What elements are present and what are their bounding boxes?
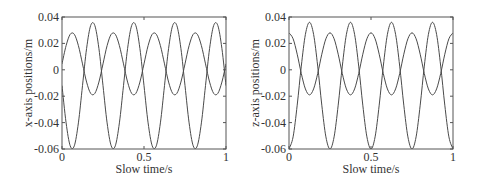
figure: 0.040.020-0.02-0.04-0.0600.51Slow time/s… [0, 0, 477, 194]
y-axis-label: x-axis positions/m [21, 38, 35, 127]
y-tick-label: -0.06 [34, 142, 59, 156]
y-tick-label: 0.02 [265, 36, 286, 50]
x-tick-label: 1 [223, 150, 229, 164]
y-tick-label: 0.04 [265, 10, 286, 24]
series-line-small-amplitude [289, 33, 453, 95]
y-tick-label: -0.02 [261, 89, 286, 103]
y-tick-label: 0.02 [38, 36, 59, 50]
series-line-large-amplitude [62, 23, 226, 149]
x-axis-label: Slow time/s [342, 162, 399, 176]
series-line-large-amplitude [289, 22, 453, 149]
y-tick-label: -0.04 [261, 116, 286, 130]
y-tick-label: 0 [53, 63, 59, 77]
subplot-z-axis: 0.040.020-0.02-0.04-0.0600.51Slow time/s… [248, 10, 456, 176]
y-tick-label: -0.04 [34, 116, 59, 130]
y-tick-label: -0.02 [34, 89, 59, 103]
x-axis-label: Slow time/s [115, 162, 172, 176]
y-axis-label: z-axis positions/m [248, 39, 262, 127]
x-tick-label: 0 [286, 150, 292, 164]
subplot-x-axis: 0.040.020-0.02-0.04-0.0600.51Slow time/s… [21, 10, 229, 176]
x-tick-label: 0 [59, 150, 65, 164]
y-tick-label: 0 [280, 63, 286, 77]
y-tick-label: -0.06 [261, 142, 286, 156]
y-tick-label: 0.04 [38, 10, 59, 24]
x-tick-label: 1 [450, 150, 456, 164]
